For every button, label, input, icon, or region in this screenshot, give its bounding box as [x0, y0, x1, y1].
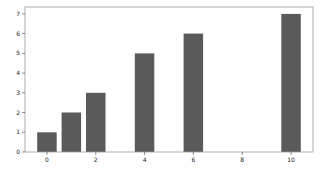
- x-tick-label: 8: [240, 156, 244, 163]
- x-tick-label: 6: [191, 156, 195, 163]
- x-tick-label: 0: [45, 156, 49, 163]
- y-tick-label: 5: [16, 49, 20, 56]
- bar-x-0: [37, 132, 57, 152]
- y-axis: 01234567: [16, 10, 25, 155]
- bar-x-4: [135, 53, 155, 152]
- bars-group: [37, 14, 301, 152]
- bar-x-10: [281, 14, 301, 152]
- x-axis: 0246810: [45, 152, 295, 163]
- y-tick-label: 3: [16, 89, 20, 96]
- y-tick-label: 4: [16, 69, 20, 76]
- y-tick-label: 0: [16, 148, 20, 155]
- y-tick-label: 1: [16, 128, 20, 135]
- bar-chart: 0246810 01234567: [0, 0, 332, 170]
- bar-x-2: [86, 93, 106, 152]
- x-tick-label: 10: [287, 156, 295, 163]
- x-tick-label: 2: [94, 156, 98, 163]
- bar-x-6: [184, 34, 204, 152]
- bar-x-1: [62, 113, 82, 153]
- y-tick-label: 2: [16, 109, 20, 116]
- y-tick-label: 7: [16, 10, 20, 17]
- y-tick-label: 6: [16, 30, 20, 37]
- x-tick-label: 4: [143, 156, 147, 163]
